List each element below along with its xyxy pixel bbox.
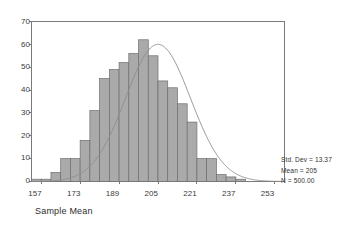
histogram-bar — [207, 159, 217, 182]
sample-size-text: N = 500.00 — [281, 176, 332, 187]
plot-canvas — [0, 0, 355, 234]
histogram-bar — [90, 111, 100, 182]
y-tick-label: 0 — [8, 177, 30, 185]
y-tick-label: 50 — [8, 63, 30, 71]
histogram-bar — [236, 179, 246, 181]
x-tick-label: 237 — [216, 190, 242, 198]
histogram-bar — [129, 54, 139, 182]
std-dev-text: Std. Dev = 13.37 — [281, 155, 332, 166]
histogram-bar — [80, 140, 90, 181]
histogram-bar — [187, 122, 197, 181]
plot-area — [0, 0, 355, 234]
x-tick-label: 221 — [177, 190, 203, 198]
x-tick-label: 157 — [22, 190, 48, 198]
x-axis-title: Sample Mean — [35, 206, 93, 216]
histogram-bar — [70, 159, 80, 182]
y-tick-label: 10 — [8, 154, 30, 162]
x-tick-label: 205 — [138, 190, 164, 198]
y-tick-label: 60 — [8, 41, 30, 49]
histogram-bar — [226, 177, 236, 182]
histogram-bar — [158, 81, 168, 182]
histogram-bar — [177, 104, 187, 182]
histogram-bar — [216, 175, 226, 182]
y-tick-label: 20 — [8, 132, 30, 140]
y-tick-label: 70 — [8, 18, 30, 26]
y-tick-label: 40 — [8, 86, 30, 94]
x-tick-label: 189 — [100, 190, 126, 198]
histogram-bar — [139, 40, 149, 182]
histogram-bar — [100, 79, 110, 182]
mean-text: Mean = 205 — [281, 166, 332, 177]
histogram-bar — [197, 159, 207, 182]
x-tick-label: 173 — [61, 190, 87, 198]
bar-group — [32, 40, 246, 182]
histogram-bar — [168, 88, 178, 182]
histogram-figure: 70 60 50 40 30 20 10 0 157 173 189 205 2… — [0, 0, 355, 234]
x-tick-label: 253 — [255, 190, 281, 198]
histogram-bar — [119, 63, 129, 182]
statistics-annotation: Std. Dev = 13.37 Mean = 205 N = 500.00 — [281, 155, 332, 187]
histogram-bar — [148, 56, 158, 182]
y-tick-label: 30 — [8, 109, 30, 117]
